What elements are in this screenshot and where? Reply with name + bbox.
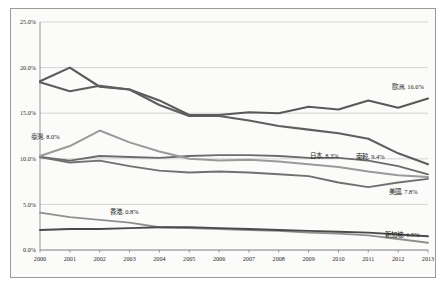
x-axis-tick-3: 2003 (123, 255, 135, 262)
y-axis-tick-5: 25.0% (20, 18, 36, 25)
y-axis-tick-2: 10.0% (20, 155, 36, 162)
label-taiwan: 臺灣, 8.0% (31, 132, 60, 141)
x-axis-tick-6: 2006 (213, 255, 225, 262)
x-axis-tick-12: 2012 (392, 255, 404, 262)
label-singapore: 新加坡, 1.5% (385, 230, 420, 239)
x-axis-tick-13: 2013 (422, 255, 434, 262)
x-axis-tick-9: 2009 (302, 255, 314, 262)
x-axis-tick-11: 2011 (362, 255, 374, 262)
x-axis-tick-7: 2007 (243, 255, 255, 262)
x-axis-tick-1: 2001 (64, 255, 76, 262)
label-europe: 歐洲, 16.6% (392, 82, 424, 91)
y-axis-tick-4: 20.0% (20, 64, 36, 71)
x-axis-tick-10: 2010 (332, 255, 344, 262)
x-axis-tick-5: 2005 (183, 255, 195, 262)
x-axis-tick-8: 2008 (273, 255, 285, 262)
series-line-0 (40, 68, 428, 115)
x-axis-tick-2: 2002 (94, 255, 106, 262)
x-axis-tick-4: 2004 (153, 255, 165, 262)
y-axis-tick-1: 5.0% (23, 201, 36, 208)
line-chart: 0.0%5.0%10.0%15.0%20.0%25.0%200020012002… (0, 0, 446, 286)
series-line-1 (40, 82, 428, 164)
x-axis-tick-0: 2000 (34, 255, 46, 262)
label-hong-kong: 香港, 0.8% (110, 207, 139, 216)
label-usa: 美國, 7.8% (389, 187, 418, 196)
label-japan: 日本, 8.3% (310, 151, 339, 160)
label-south-korea: 南韓, 9.4% (356, 152, 385, 161)
y-axis-tick-3: 15.0% (20, 109, 36, 116)
y-axis-tick-0: 0.0% (23, 246, 36, 253)
chart-canvas: 0.0%5.0%10.0%15.0%20.0%25.0%200020012002… (0, 0, 446, 286)
